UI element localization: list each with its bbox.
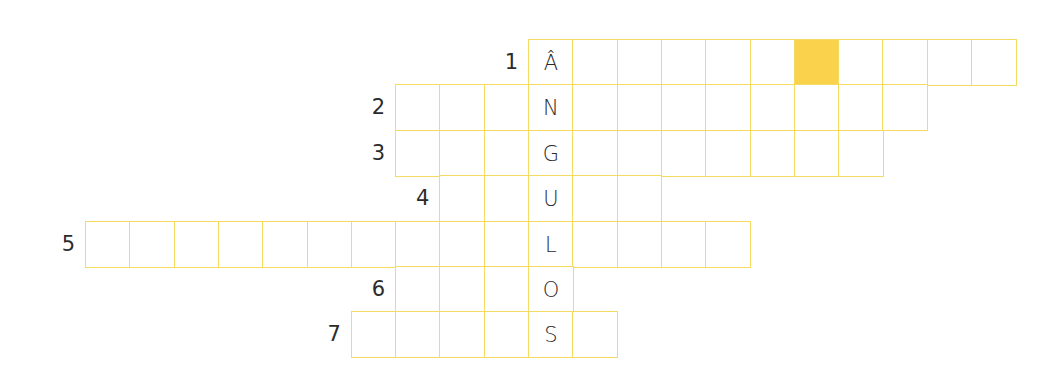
crossword-cell[interactable] (750, 84, 796, 131)
crossword-cell[interactable] (484, 84, 530, 131)
clue-number: 3 (355, 130, 385, 176)
crossword-cell[interactable] (705, 130, 751, 177)
crossword-cell[interactable] (705, 39, 751, 86)
crossword-cell[interactable] (838, 39, 884, 86)
crossword-cell[interactable] (484, 130, 530, 177)
crossword-cell[interactable] (617, 39, 663, 86)
crossword-cell[interactable] (395, 130, 441, 177)
crossword-cell[interactable] (484, 175, 530, 222)
crossword-cell[interactable] (661, 221, 707, 268)
crossword-cell[interactable] (439, 175, 485, 222)
clue-number: 5 (45, 221, 75, 267)
clue-number: 1 (488, 39, 518, 85)
crossword-cell[interactable] (661, 130, 707, 177)
crossword-cell[interactable] (705, 221, 751, 268)
crossword-cell[interactable]: G (528, 130, 574, 177)
crossword-cell[interactable]: N (528, 84, 574, 131)
crossword-cell[interactable] (661, 84, 707, 131)
crossword-cell[interactable] (617, 221, 663, 268)
crossword-cell[interactable]: S (528, 311, 574, 358)
crossword-cell[interactable] (572, 175, 618, 222)
crossword-cell[interactable] (395, 311, 441, 358)
crossword-cell[interactable] (439, 221, 485, 268)
crossword-cell[interactable] (351, 221, 397, 268)
crossword-cell[interactable] (174, 221, 220, 268)
clue-number: 7 (311, 311, 341, 357)
crossword-cell[interactable]: O (528, 266, 574, 313)
crossword-cell[interactable] (617, 130, 663, 177)
highlighted-cell[interactable] (794, 39, 840, 86)
crossword-cell[interactable] (750, 39, 796, 86)
crossword-cell[interactable]: L (528, 221, 574, 268)
crossword-cell[interactable] (838, 130, 884, 177)
crossword-cell[interactable] (484, 221, 530, 268)
crossword-cell[interactable] (439, 266, 485, 313)
crossword-cell[interactable] (395, 221, 441, 268)
crossword-cell[interactable] (927, 39, 973, 86)
crossword-cell[interactable] (439, 84, 485, 131)
crossword-cell[interactable] (971, 39, 1017, 86)
crossword-cell[interactable] (307, 221, 353, 268)
crossword-cell[interactable] (661, 39, 707, 86)
crossword-cell[interactable] (794, 84, 840, 131)
crossword-cell[interactable] (439, 311, 485, 358)
clue-number: 6 (355, 266, 385, 312)
crossword-cell[interactable] (85, 221, 131, 268)
clue-number: 4 (399, 175, 429, 221)
crossword-cell[interactable] (351, 311, 397, 358)
crossword-cell[interactable] (262, 221, 308, 268)
crossword-cell[interactable] (484, 311, 530, 358)
crossword-cell[interactable] (882, 39, 928, 86)
crossword-cell[interactable] (617, 84, 663, 131)
crossword-cell[interactable] (838, 84, 884, 131)
crossword-cell[interactable] (484, 266, 530, 313)
crossword-cell[interactable] (750, 130, 796, 177)
crossword-cell[interactable] (395, 266, 441, 313)
crossword-cell[interactable] (882, 84, 928, 131)
crossword-cell[interactable]: U (528, 175, 574, 222)
crossword-cell[interactable] (395, 84, 441, 131)
crossword-cell[interactable]: Â (528, 39, 574, 86)
crossword-cell[interactable] (572, 130, 618, 177)
crossword-cell[interactable] (617, 175, 663, 222)
crossword-cell[interactable] (705, 84, 751, 131)
crossword-cell[interactable] (794, 130, 840, 177)
crossword-cell[interactable] (439, 130, 485, 177)
crossword-cell[interactable] (129, 221, 175, 268)
crossword-cell[interactable] (572, 311, 618, 358)
crossword-cell[interactable] (572, 84, 618, 131)
crossword-cell[interactable] (218, 221, 264, 268)
crossword-cell[interactable] (572, 39, 618, 86)
crossword-cell[interactable] (572, 221, 618, 268)
crossword-grid: 1Â2N3G4U5L6O7S (0, 0, 1061, 373)
clue-number: 2 (355, 84, 385, 130)
